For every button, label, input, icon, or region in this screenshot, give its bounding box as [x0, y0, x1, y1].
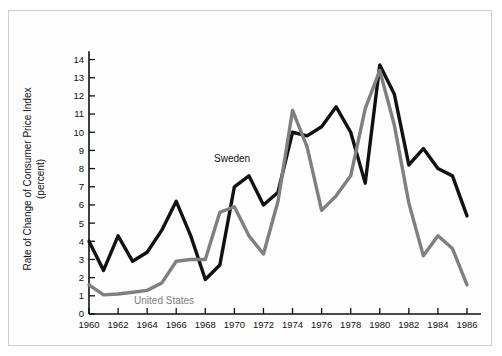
figure-frame: Rate of Change of Consumer Price Index (…	[8, 10, 492, 346]
series-line-sweden	[89, 65, 467, 279]
x-tick-label: 1976	[311, 319, 332, 330]
y-tick-label: 10	[73, 127, 84, 138]
y-tick-label: 6	[79, 199, 84, 210]
y-tick-label: 0	[79, 308, 84, 319]
series-line-united-states	[89, 70, 467, 294]
series-group	[89, 65, 467, 295]
cpi-line-chart: Rate of Change of Consumer Price Index (…	[9, 11, 493, 347]
x-tick-label: 1980	[369, 319, 390, 330]
y-axis: 01234567891011121314	[73, 51, 95, 319]
y-axis-title-group: Rate of Change of Consumer Price Index (…	[22, 88, 46, 271]
y-tick-label: 8	[79, 163, 84, 174]
y-axis-title-line2: (percent)	[35, 159, 46, 199]
x-axis: 1960196219641966196819701972197419761978…	[78, 308, 481, 330]
x-tick-label: 1978	[340, 319, 361, 330]
y-tick-label: 14	[73, 54, 84, 65]
y-axis-title-line1: Rate of Change of Consumer Price Index	[22, 88, 33, 271]
y-tick-label: 12	[73, 90, 84, 101]
y-tick-label: 11	[74, 108, 84, 119]
x-tick-label: 1982	[398, 319, 419, 330]
x-tick-label: 1964	[137, 319, 158, 330]
x-tick-label: 1968	[195, 319, 216, 330]
x-tick-label: 1972	[253, 319, 274, 330]
x-tick-label: 1984	[427, 319, 448, 330]
x-tick-label: 1966	[166, 319, 187, 330]
x-tick-label: 1960	[78, 319, 99, 330]
x-tick-label: 1970	[224, 319, 245, 330]
y-tick-label: 4	[79, 236, 84, 247]
y-tick-label: 13	[73, 72, 84, 83]
y-tick-label: 3	[79, 254, 84, 265]
y-tick-label: 7	[79, 181, 84, 192]
y-tick-label: 1	[79, 290, 84, 301]
y-tick-label: 5	[79, 218, 84, 229]
x-tick-label: 1962	[108, 319, 129, 330]
x-tick-label: 1974	[282, 319, 303, 330]
united-states-series-label: United States	[134, 295, 194, 306]
x-tick-label: 1986	[456, 319, 477, 330]
y-tick-label: 2	[79, 272, 84, 283]
y-tick-label: 9	[79, 145, 84, 156]
sweden-series-label: Sweden	[214, 153, 250, 164]
